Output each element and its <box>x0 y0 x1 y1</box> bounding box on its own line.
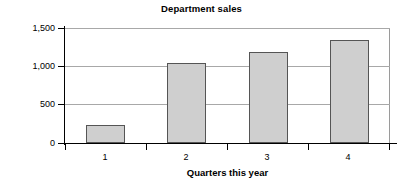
y-tick-label-1500: 1,500 <box>9 24 55 33</box>
bar-quarter-4[interactable] <box>330 40 369 143</box>
y-tick-500 <box>58 104 65 105</box>
bar-slot-4 <box>309 28 390 143</box>
bar-quarter-2[interactable] <box>167 63 206 144</box>
bar-slot-1 <box>65 28 146 143</box>
bar-quarter-3[interactable] <box>249 52 288 143</box>
bar-slot-3 <box>228 28 309 143</box>
x-tick-label-2: 2 <box>166 152 206 162</box>
x-tick-boundary-2 <box>227 144 228 150</box>
x-tick-label-1: 1 <box>85 152 125 162</box>
x-tick-label-4: 4 <box>328 152 368 162</box>
y-tick-label-0: 0 <box>9 139 55 148</box>
y-tick-label-1000: 1,000 <box>9 62 55 71</box>
y-tick-1000 <box>58 66 65 67</box>
x-tick-boundary-4 <box>389 144 390 150</box>
x-axis-title: Quarters this year <box>58 167 397 178</box>
chart-title: Department sales <box>0 3 403 14</box>
x-tick-boundary-1 <box>146 144 147 150</box>
bar-chart: Department sales Sales in thousands 1,50… <box>0 0 403 185</box>
x-tick-label-3: 3 <box>247 152 287 162</box>
bar-slot-2 <box>146 28 227 143</box>
y-tick-1500 <box>58 28 65 29</box>
y-axis-line <box>64 26 65 145</box>
y-tick-0 <box>58 143 65 144</box>
x-tick-boundary-0 <box>65 144 66 150</box>
bar-quarter-1[interactable] <box>86 125 125 143</box>
x-tick-boundary-3 <box>308 144 309 150</box>
y-tick-label-500: 500 <box>9 100 55 109</box>
bar-group <box>65 28 390 143</box>
